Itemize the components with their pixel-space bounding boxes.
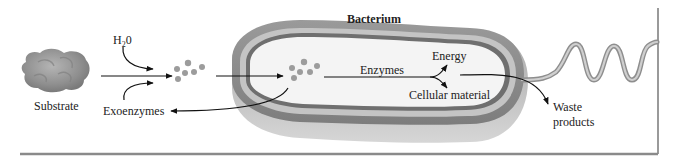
waste-label-line2: products [553,116,594,128]
diagram-graphics [0,0,677,157]
substrate-icon [22,49,90,92]
arrow-water-in [123,47,153,69]
water-label-o: 0 [126,33,132,47]
small-molecules-outside [174,60,205,82]
arrow-exoenzymes-in [124,83,153,100]
bacterium-title: Bacterium [347,13,401,25]
exoenzymes-label: Exoenzymes [103,105,164,117]
bacterial-metabolism-diagram: Bacterium Substrate H20 Exoenzymes Enzym… [0,0,677,157]
enzymes-label: Enzymes [360,64,404,76]
energy-label: Energy [432,50,466,62]
water-label-h: H [113,33,122,47]
waste-label-line1: Waste [553,101,582,113]
cellular-material-label: Cellular material [409,89,490,101]
flagellum-icon [522,42,657,80]
substrate-label: Substrate [34,100,79,112]
water-label: H20 [113,34,132,49]
bacterium-cell [232,20,528,143]
